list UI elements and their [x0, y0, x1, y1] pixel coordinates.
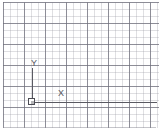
grid-major-lines: [3, 2, 159, 128]
ucs-x-axis-label: X: [58, 89, 64, 98]
ucs-origin-marker[interactable]: [28, 98, 35, 105]
ucs-y-axis-label: Y: [31, 59, 37, 68]
ucs-x-axis-line: [32, 102, 157, 103]
frame-bottom-rule: [4, 127, 156, 128]
frame-top-rule: [4, 2, 156, 3]
drawing-canvas[interactable]: Y X: [0, 2, 159, 128]
ucs-y-axis-line: [32, 68, 33, 102]
cad-grid-viewport[interactable]: Y X: [0, 0, 159, 135]
